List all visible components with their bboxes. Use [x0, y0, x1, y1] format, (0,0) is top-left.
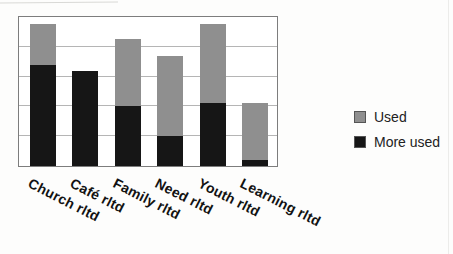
- legend: Used More used: [354, 109, 440, 150]
- bar-segment-more-used: [242, 160, 268, 166]
- stacked-bar-need-rltd: [157, 56, 183, 166]
- stacked-bar-caf-rltd: [72, 71, 98, 166]
- legend-item-used: Used: [354, 109, 440, 125]
- page: Church rltdCafé rltdFamily rltdNeed rltd…: [0, 0, 453, 254]
- legend-label-more-used: More used: [374, 134, 440, 150]
- stacked-bar-youth-rltd: [200, 24, 226, 166]
- plot-area: [18, 16, 278, 167]
- bar-segment-used: [242, 103, 268, 160]
- bar-segment-used: [157, 56, 183, 136]
- gridline: [19, 105, 277, 106]
- bar-segment-used: [115, 39, 141, 106]
- bar-segment-more-used: [115, 106, 141, 166]
- stacked-bar-learning-rltd: [242, 103, 268, 166]
- stacked-bar-church-rltd: [30, 24, 56, 166]
- photo-edge-artifact-right: [448, 0, 449, 254]
- legend-label-used: Used: [374, 109, 407, 125]
- gridline: [19, 46, 277, 47]
- bar-segment-more-used: [157, 136, 183, 166]
- gridline: [19, 135, 277, 136]
- bar-segment-used: [200, 24, 226, 103]
- bar-segment-used: [30, 24, 56, 64]
- legend-item-more-used: More used: [354, 134, 440, 150]
- photo-edge-artifact-top: [0, 1, 118, 3]
- stacked-bar-family-rltd: [115, 39, 141, 166]
- bar-segment-more-used: [72, 71, 98, 166]
- legend-swatch-more-used-icon: [354, 136, 366, 148]
- bar-segment-more-used: [30, 65, 56, 166]
- gridline: [19, 76, 277, 77]
- bar-segment-more-used: [200, 103, 226, 166]
- legend-swatch-used-icon: [354, 111, 366, 123]
